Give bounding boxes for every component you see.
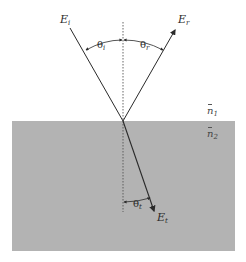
label-sub: i [68,19,70,27]
label-sub: r [186,19,189,27]
label-base: E [157,211,165,224]
label-base: E [60,13,68,26]
label-sub: r [146,44,149,52]
label-sub: 2 [213,133,217,141]
incident-angle-label: θi [97,39,105,52]
label-sub: i [103,44,105,52]
label-base: E [178,13,186,26]
medium2-region [12,121,235,251]
reflected-field-label: Er [178,14,189,27]
label-sub: t [139,203,142,211]
label-base: n [207,106,213,116]
medium1-label: n1 [207,106,218,118]
label-base: n [207,129,213,139]
transmitted-field-label: Et [157,212,168,225]
medium2-label: n2 [207,129,218,141]
transmitted-angle-label: θt [133,198,142,211]
incident-field-label: Ei [60,14,70,27]
label-sub: 1 [213,110,217,118]
label-sub: t [165,217,168,225]
reflected-angle-label: θr [140,39,149,52]
